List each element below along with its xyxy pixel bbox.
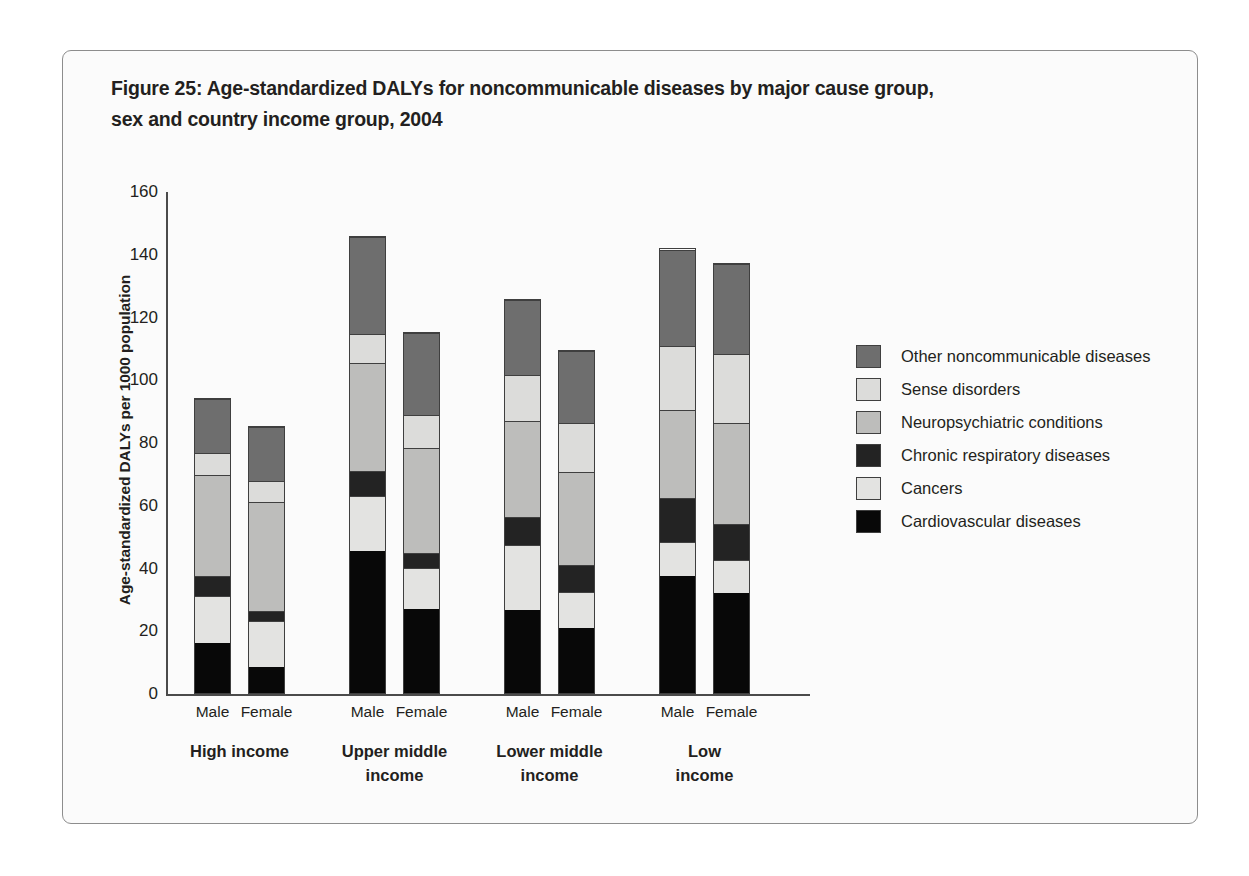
bar-segment-neuropsychiatric-conditions (249, 502, 284, 611)
bar-segment-chronic-respiratory-diseases (714, 524, 749, 560)
bar-segment-cancers (195, 596, 230, 643)
bar-segment-cardiovascular-diseases (350, 551, 385, 693)
bar-segment-sense-disorders (559, 423, 594, 471)
bar-segment-other-noncommunicable-diseases (559, 351, 594, 423)
legend-item-neuropsychiatric-conditions[interactable]: Neuropsychiatric conditions (856, 406, 1186, 439)
bar-segment-cardiovascular-diseases (559, 628, 594, 693)
y-axis-tick-120: 120 (114, 308, 158, 328)
bar-high-income-female[interactable] (248, 426, 285, 694)
legend-swatch-icon (856, 411, 881, 434)
chart-legend: Other noncommunicable diseasesSense diso… (856, 340, 1186, 538)
legend-item-label: Sense disorders (901, 380, 1020, 399)
group-label-line: High income (150, 739, 330, 763)
legend-item-label: Chronic respiratory diseases (901, 446, 1110, 465)
bar-low-income-male[interactable] (659, 248, 696, 694)
bar-segment-other-noncommunicable-diseases (249, 427, 284, 482)
legend-item-sense-disorders[interactable]: Sense disorders (856, 373, 1186, 406)
legend-swatch-icon (856, 477, 881, 500)
bar-lower-middle-income-male[interactable] (504, 299, 541, 694)
bar-lower-middle-income-female[interactable] (558, 350, 595, 694)
bar-segment-other-noncommunicable-diseases (505, 300, 540, 375)
group-label-line: Upper middle (305, 739, 485, 763)
y-axis-tick-160: 160 (114, 182, 158, 202)
bar-segment-cancers (714, 560, 749, 593)
bar-segment-sense-disorders (714, 354, 749, 423)
x-axis-group-label-1: Upper middleincome (305, 739, 485, 787)
x-axis-group-label-0: High income (150, 739, 330, 763)
bar-segment-cardiovascular-diseases (505, 610, 540, 693)
bar-segment-other-noncommunicable-diseases (404, 333, 439, 416)
bar-segment-cardiovascular-diseases (714, 593, 749, 693)
legend-swatch-icon (856, 345, 881, 368)
bar-segment-cardiovascular-diseases (404, 609, 439, 693)
y-axis-tick-20: 20 (114, 621, 158, 641)
bar-segment-chronic-respiratory-diseases (505, 517, 540, 545)
x-axis-sex-label-5: Female (540, 703, 614, 721)
bar-segment-neuropsychiatric-conditions (350, 363, 385, 471)
legend-item-other-noncommunicable-diseases[interactable]: Other noncommunicable diseases (856, 340, 1186, 373)
figure-card: Figure 25: Age-standardized DALYs for no… (62, 50, 1198, 824)
bar-segment-chronic-respiratory-diseases (660, 498, 695, 542)
bar-segment-neuropsychiatric-conditions (660, 410, 695, 497)
bar-segment-other-noncommunicable-diseases (350, 237, 385, 334)
bar-segment-sense-disorders (404, 415, 439, 448)
y-axis-tick-80: 80 (114, 433, 158, 453)
bar-segment-cardiovascular-diseases (660, 576, 695, 693)
legend-item-label: Neuropsychiatric conditions (901, 413, 1103, 432)
bar-segment-other-noncommunicable-diseases (195, 399, 230, 454)
legend-item-label: Other noncommunicable diseases (901, 347, 1150, 366)
bar-segment-neuropsychiatric-conditions (404, 448, 439, 553)
legend-swatch-icon (856, 444, 881, 467)
x-axis-sex-label-1: Female (230, 703, 304, 721)
bar-segment-sense-disorders (249, 481, 284, 501)
bar-segment-cancers (559, 592, 594, 628)
bar-segment-sense-disorders (505, 375, 540, 422)
legend-item-label: Cancers (901, 479, 962, 498)
bar-segment-chronic-respiratory-diseases (559, 565, 594, 592)
legend-item-cancers[interactable]: Cancers (856, 472, 1186, 505)
bar-segment-sense-disorders (195, 453, 230, 475)
group-label-line: income (615, 763, 795, 787)
bar-segment-chronic-respiratory-diseases (350, 471, 385, 496)
bar-segment-neuropsychiatric-conditions (195, 475, 230, 576)
x-axis-group-label-2: Lower middleincome (460, 739, 640, 787)
bar-segment-other-noncommunicable-diseases (660, 250, 695, 347)
y-axis-tick-60: 60 (114, 496, 158, 516)
y-axis-tick-labels: 020406080100120140160 (104, 51, 158, 825)
bar-low-income-female[interactable] (713, 263, 750, 694)
y-axis-tick-0: 0 (114, 684, 158, 704)
bar-segment-cancers (350, 496, 385, 551)
bar-segment-neuropsychiatric-conditions (559, 472, 594, 566)
bar-upper-middle-income-female[interactable] (403, 332, 440, 694)
bar-segment-chronic-respiratory-diseases (404, 553, 439, 569)
bar-high-income-male[interactable] (194, 398, 231, 694)
y-axis-tick-140: 140 (114, 245, 158, 265)
bar-segment-neuropsychiatric-conditions (714, 423, 749, 525)
legend-item-label: Cardiovascular diseases (901, 512, 1081, 531)
legend-swatch-icon (856, 378, 881, 401)
bar-segment-sense-disorders (350, 334, 385, 364)
bar-segment-cancers (505, 545, 540, 611)
bar-segment-chronic-respiratory-diseases (195, 576, 230, 596)
legend-item-cardiovascular-diseases[interactable]: Cardiovascular diseases (856, 505, 1186, 538)
bar-segment-sense-disorders (660, 346, 695, 410)
bar-segment-other-noncommunicable-diseases (714, 264, 749, 355)
y-axis-tick-100: 100 (114, 370, 158, 390)
group-label-line: income (460, 763, 640, 787)
bar-segment-chronic-respiratory-diseases (249, 611, 284, 622)
x-axis-sex-label-3: Female (385, 703, 459, 721)
x-axis-group-label-3: Lowincome (615, 739, 795, 787)
x-axis-sex-label-7: Female (695, 703, 769, 721)
bar-segment-neuropsychiatric-conditions (505, 421, 540, 516)
bar-segment-cancers (249, 621, 284, 666)
bar-segment-cardiovascular-diseases (195, 643, 230, 693)
legend-swatch-icon (856, 510, 881, 533)
legend-item-chronic-respiratory-diseases[interactable]: Chronic respiratory diseases (856, 439, 1186, 472)
group-label-line: Lower middle (460, 739, 640, 763)
bar-segment-cardiovascular-diseases (249, 667, 284, 693)
bar-segment-cancers (660, 542, 695, 576)
bar-segment-cancers (404, 568, 439, 609)
group-label-line: income (305, 763, 485, 787)
bar-upper-middle-income-male[interactable] (349, 236, 386, 694)
group-label-line: Low (615, 739, 795, 763)
